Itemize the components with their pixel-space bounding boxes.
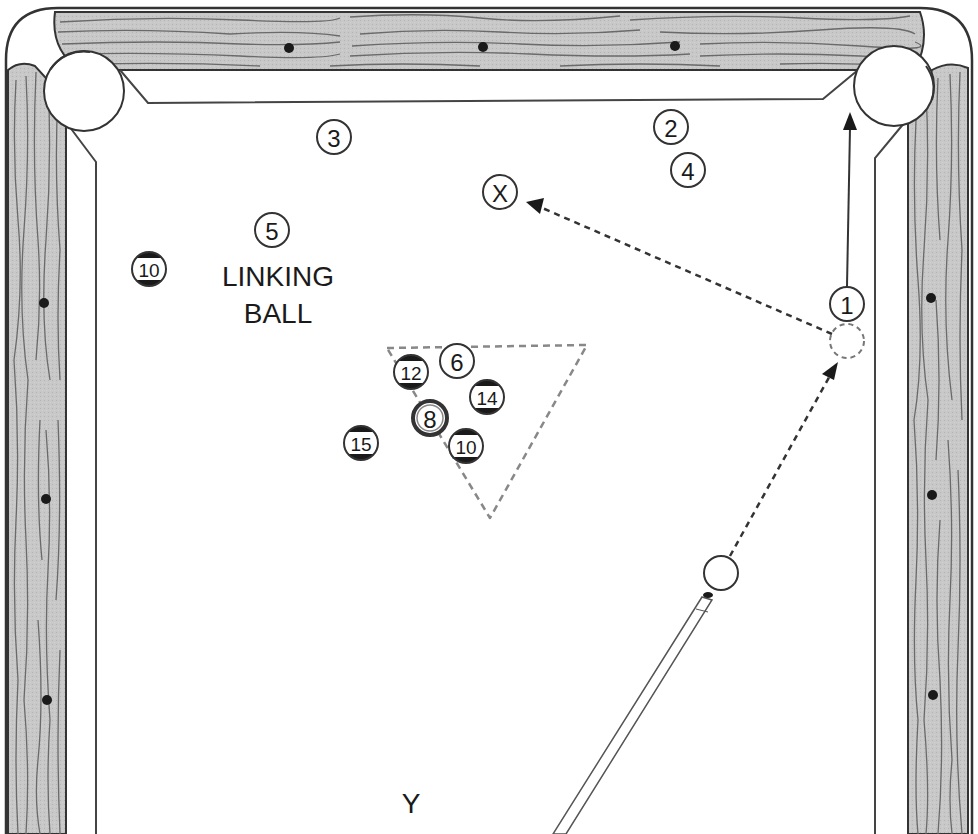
linking-ball-label-line2: BALL (244, 298, 313, 329)
pool-table-diagram: X 12345681010121415 LINKING BALL Y (0, 0, 978, 834)
ball-number-label: 14 (476, 388, 498, 409)
ball-number-label: 6 (450, 349, 463, 376)
cue-tip (703, 592, 713, 598)
diamond-marker (670, 41, 680, 51)
ball-8: 8 (413, 401, 447, 435)
diamond-marker (926, 293, 936, 303)
diamond-marker (42, 695, 52, 705)
left-rail (8, 64, 66, 834)
ball-4: 4 (671, 153, 705, 187)
target-x-label: X (492, 180, 508, 207)
corner-pocket-right (854, 46, 934, 126)
ball-number-label: 15 (350, 434, 371, 455)
ball-number-label: 1 (840, 292, 853, 319)
ball-12: 12 (394, 355, 428, 389)
linking-ball-label-line1: LINKING (222, 261, 334, 292)
ball-10: 10 (132, 252, 166, 286)
target-x-marker: X (483, 175, 517, 209)
ball-6: 6 (440, 344, 474, 378)
diamond-marker (478, 42, 488, 52)
ball-1: 1 (830, 287, 864, 321)
ball-number-label: 12 (400, 363, 421, 384)
diamond-marker (39, 298, 49, 308)
diamond-marker (928, 690, 938, 700)
diamond-marker (927, 490, 937, 500)
top-rail (54, 12, 924, 70)
ball-number-label: 10 (455, 437, 476, 458)
ball-number-label: 10 (138, 260, 159, 281)
ball-10: 10 (449, 429, 483, 463)
diamond-marker (284, 43, 294, 53)
diamond-marker (41, 494, 51, 504)
ball-number-label: 5 (265, 218, 278, 245)
position-y-label: Y (402, 788, 421, 819)
ball-2: 2 (654, 110, 688, 144)
table-frame (6, 8, 972, 834)
ball-15: 15 (344, 426, 378, 460)
right-rail (908, 64, 968, 834)
ball-number-label: 3 (327, 125, 340, 152)
ball-3: 3 (317, 120, 351, 154)
ball-14: 14 (470, 380, 504, 414)
corner-pocket-left (44, 51, 124, 131)
ball-number-label: 4 (681, 158, 694, 185)
cue-ball (704, 556, 738, 590)
ball-number-label: 2 (664, 115, 677, 142)
ball-number-label: 8 (423, 406, 436, 433)
ball-5: 5 (255, 213, 289, 247)
